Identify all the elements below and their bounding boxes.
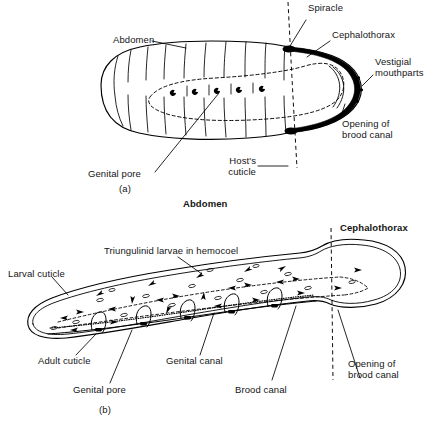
label-genital-pore-a: Genital pore	[88, 168, 141, 179]
panel-a-drawing	[101, 2, 373, 172]
leader-brood-canal	[272, 306, 296, 380]
label-genital-pore-b: Genital pore	[73, 384, 126, 395]
label-abdomen-a: Abdomen	[113, 34, 154, 45]
vestigial-mouthpart-nub	[359, 89, 363, 92]
adult-cuticle-outline	[33, 244, 401, 334]
caption-panel-a: (a)	[105, 183, 145, 194]
label-opening-brood-canal-b: Opening of brood canal	[348, 358, 399, 380]
heading-abdomen-b: Abdomen	[183, 198, 228, 209]
ventral-dark-marker	[285, 128, 298, 135]
leader-larval-cuticle	[52, 277, 68, 295]
hosts-cuticle-line	[288, 2, 297, 168]
label-cephalothorax-a: Cephalothorax	[332, 29, 395, 40]
label-larval-cuticle: Larval cuticle	[8, 268, 65, 279]
abdomen-tip-line	[114, 56, 123, 126]
leader-genital-pore-b	[110, 330, 132, 383]
internal-dashed-boundary	[149, 63, 344, 120]
label-hosts-cuticle: Host's cuticle	[198, 155, 256, 177]
heading-cephalothorax-b: Cephalothorax	[340, 222, 408, 233]
label-opening-brood-canal-a: Opening of brood canal	[342, 118, 393, 140]
triungulinid-larvae-group	[51, 264, 362, 332]
label-genital-canal: Genital canal	[166, 355, 223, 366]
leader-spiracle	[290, 20, 306, 46]
leader-adult-cuticle	[76, 334, 96, 355]
label-triungulinid: Triungulinid larvae in hemocoel	[104, 245, 238, 256]
label-spiracle: Spiracle	[308, 2, 343, 13]
label-adult-cuticle: Adult cuticle	[38, 355, 91, 366]
leader-vestigial-mouthparts	[362, 75, 373, 86]
label-vestigial-mouthparts: Vestigial mouthparts	[375, 56, 424, 78]
brood-canal-lumen-tip	[340, 277, 368, 295]
label-brood-canal: Brood canal	[235, 384, 287, 395]
leader-genital-canal	[200, 313, 214, 355]
caption-panel-b: (b)	[85, 404, 125, 415]
